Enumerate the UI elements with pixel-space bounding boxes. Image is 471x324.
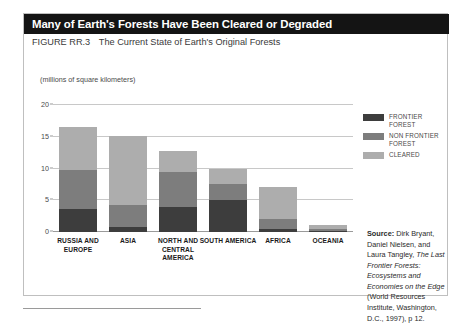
y-axis-tick-mark	[50, 135, 53, 136]
source-note: Source: Dirk Bryant, Daniel Nielsen, and…	[367, 229, 450, 324]
y-axis-unit-note: (millions of square kilometers)	[40, 75, 135, 84]
source-text-2: (World Resources Institute, Washington, …	[367, 292, 437, 322]
legend-label: CLEARED	[389, 151, 420, 159]
source-label: Source:	[367, 229, 394, 238]
legend-item: FRONTIER FOREST	[363, 113, 445, 129]
y-axis-tick-label: 10	[41, 163, 49, 172]
chart-legend: FRONTIER FORESTNON FRONTIER FORESTCLEARE…	[363, 113, 445, 162]
bar-stack: RUSSIA AND EUROPE	[59, 127, 97, 232]
bar-segment	[109, 227, 147, 232]
gridline-15: 15	[53, 136, 353, 137]
y-axis-tick-label: 20	[41, 100, 49, 109]
gridline-5: 5	[53, 199, 353, 200]
chart-plot-area: 05101520RUSSIA AND EUROPEASIANORTH AND C…	[53, 105, 353, 232]
legend-swatch	[363, 133, 384, 140]
x-axis-category-label: OCEANIA	[296, 237, 360, 246]
bar-stack: NORTH AND CENTRAL AMERICA	[159, 151, 197, 232]
legend-item: CLEARED	[363, 151, 445, 159]
bar-segment	[309, 231, 347, 232]
legend-swatch	[363, 114, 384, 121]
bar-segment	[209, 184, 247, 200]
figure-number: FIGURE RR.3	[32, 37, 90, 47]
legend-label: NON FRONTIER FOREST	[389, 132, 445, 148]
gridline-20: 20	[53, 104, 353, 105]
y-axis-tick-mark	[50, 231, 53, 232]
bar-stack: AFRICA	[259, 187, 297, 232]
bar-segment	[109, 205, 147, 227]
bar-segment	[59, 170, 97, 209]
bar-segment	[59, 127, 97, 171]
bar-segment	[259, 229, 297, 232]
legend-label: FRONTIER FOREST	[389, 113, 445, 129]
bar-stack: ASIA	[109, 136, 147, 233]
y-axis-tick-mark	[50, 199, 53, 200]
bar-segment	[59, 209, 97, 232]
gridline-10: 10	[53, 168, 353, 169]
bar-segment	[159, 151, 197, 172]
bar-segment	[159, 172, 197, 207]
bar-segment	[259, 219, 297, 229]
figure-caption-row: FIGURE RR.3 The Current State of Earth's…	[32, 37, 442, 51]
bar-stack: SOUTH AMERICA	[209, 169, 247, 232]
bar-stack: OCEANIA	[309, 225, 347, 232]
y-axis-tick-label: 0	[45, 227, 49, 236]
figure-caption-text: The Current State of Earth's Original Fo…	[99, 37, 281, 47]
bar-segment	[109, 136, 147, 206]
legend-swatch	[363, 152, 384, 159]
page-bottom-rule	[23, 308, 201, 309]
bar-segment	[159, 207, 197, 232]
y-axis-tick-mark	[50, 104, 53, 105]
figure-card: Many of Earth's Forests Have Been Cleare…	[23, 13, 448, 296]
bar-segment	[209, 169, 247, 184]
y-axis-tick-label: 5	[45, 195, 49, 204]
gridline-0: 0	[53, 231, 353, 232]
legend-item: NON FRONTIER FOREST	[363, 132, 445, 148]
bar-segment	[259, 187, 297, 219]
y-axis-tick-label: 15	[41, 131, 49, 140]
y-axis-tick-mark	[50, 167, 53, 168]
bar-segment	[209, 200, 247, 232]
figure-headline: Many of Earth's Forests Have Been Cleare…	[24, 14, 449, 34]
